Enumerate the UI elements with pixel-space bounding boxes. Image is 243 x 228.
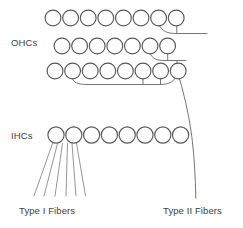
cochlea-innervation-diagram: OHCs IHCs Type I Fibers Type II Fibers: [0, 0, 243, 228]
nerve-fiber-icon-type-i-3: [55, 144, 63, 197]
ohcs-label: OHCs: [11, 38, 37, 48]
type-i-fibers-label: Type I Fibers: [19, 206, 75, 216]
type-i-fiber-fan: [34, 143, 86, 196]
circle-hair-cell-icon: [137, 127, 153, 143]
circle-hair-cell-icon: [72, 38, 88, 54]
circle-hair-cell-icon: [173, 127, 189, 143]
circle-hair-cell-icon: [168, 10, 184, 26]
circle-hair-cell-icon: [101, 127, 117, 143]
circle-hair-cell-icon: [47, 63, 63, 79]
ihcs-label: IHCs: [11, 131, 33, 141]
circle-hair-cell-icon: [107, 38, 123, 54]
ohc-row-2: [54, 38, 175, 54]
circle-hair-cell-icon: [80, 10, 96, 26]
circle-hair-cell-icon: [170, 63, 186, 79]
circle-hair-cell-icon: [65, 63, 81, 79]
nerve-fiber-icon-type-i-1: [34, 144, 53, 197]
circle-hair-cell-icon: [155, 127, 171, 143]
circle-hair-cell-icon: [45, 10, 61, 26]
circle-hair-cell-icon: [98, 10, 114, 26]
diagram-canvas: [0, 0, 243, 228]
nerve-fiber-icon-type-i-5: [72, 144, 76, 197]
circle-hair-cell-icon: [66, 127, 82, 143]
circle-hair-cell-icon: [133, 10, 149, 26]
nerve-fiber-icon-type-i-4: [66, 144, 68, 197]
circle-hair-cell-icon: [116, 10, 132, 26]
ohc-row-1: [45, 10, 184, 26]
circle-hair-cell-icon: [100, 63, 116, 79]
circle-hair-cell-icon: [89, 38, 105, 54]
circle-hair-cell-icon: [118, 63, 134, 79]
nerve-fiber-icon-row3-a: [73, 78, 87, 84]
circle-hair-cell-icon: [54, 38, 70, 54]
type-ii-fibers-label: Type II Fibers: [163, 206, 222, 216]
ohc-row-3: [47, 63, 186, 79]
nerve-fiber-icon-type-i-2: [44, 144, 58, 197]
circle-hair-cell-icon: [160, 38, 176, 54]
nerve-fiber-icon-type-i-6: [77, 143, 86, 196]
circle-hair-cell-icon: [63, 10, 79, 26]
nerve-fiber-icon-row1-a: [160, 26, 208, 34]
circle-hair-cell-icon: [135, 63, 151, 79]
circle-hair-cell-icon: [48, 127, 64, 143]
circle-hair-cell-icon: [151, 10, 167, 26]
circle-hair-cell-icon: [84, 127, 100, 143]
circle-hair-cell-icon: [124, 38, 140, 54]
circle-hair-cell-icon: [142, 38, 158, 54]
circle-hair-cell-icon: [119, 127, 135, 143]
circle-hair-cell-icon: [82, 63, 98, 79]
circle-hair-cell-icon: [153, 63, 169, 79]
ihc-row-1: [48, 127, 189, 143]
